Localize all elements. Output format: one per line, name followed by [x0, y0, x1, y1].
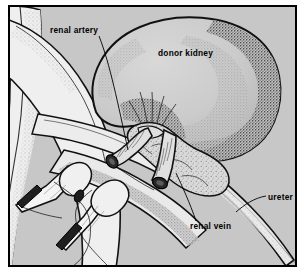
label-ureter: ureter	[268, 192, 294, 202]
label-donor-kidney: donor kidney	[158, 48, 213, 58]
kidney-transplant-illustration: renal artery donor kidney ureter renal v…	[0, 0, 305, 278]
illustration-figure: renal artery donor kidney ureter renal v…	[0, 0, 305, 278]
label-renal-vein: renal vein	[190, 221, 231, 231]
label-renal-artery: renal artery	[50, 25, 98, 35]
